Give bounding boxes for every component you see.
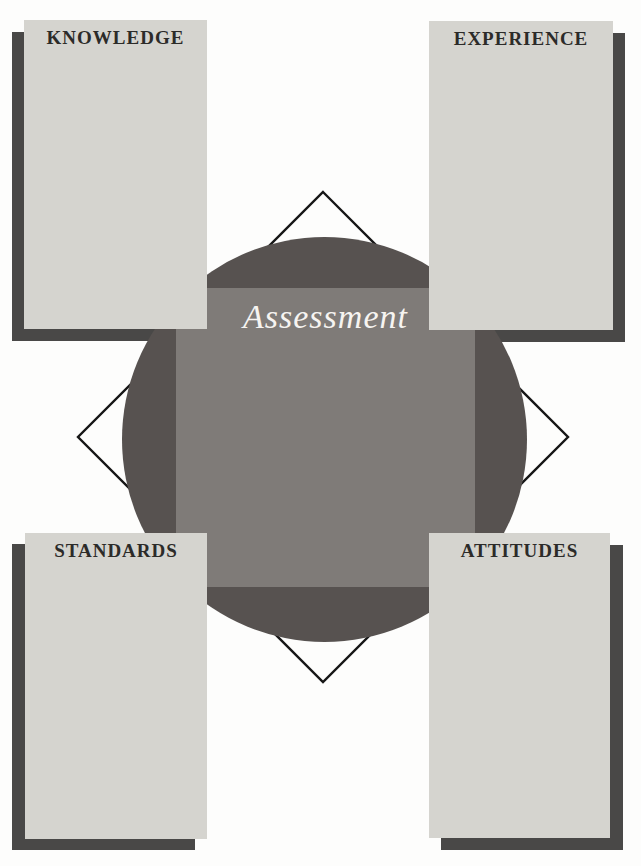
assessment-diagram: Assessment KNOWLEDGE EXPERIENCE STANDARD… [0, 0, 641, 866]
panel-standards-label: STANDARDS [25, 533, 207, 563]
panel-experience: EXPERIENCE [429, 21, 613, 330]
panel-attitudes: ATTITUDES [429, 533, 610, 838]
panel-standards: STANDARDS [25, 533, 207, 839]
panel-knowledge-label: KNOWLEDGE [24, 20, 207, 50]
panel-attitudes-label: ATTITUDES [429, 533, 610, 563]
panel-experience-label: EXPERIENCE [429, 21, 613, 51]
panel-knowledge: KNOWLEDGE [24, 20, 207, 329]
